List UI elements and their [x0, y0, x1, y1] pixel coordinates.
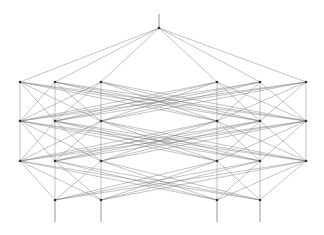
node-layer-3: [216, 160, 219, 163]
node-layer-1: [54, 81, 57, 84]
node-layer-1: [100, 81, 103, 84]
edge: [20, 28, 159, 82]
edge: [101, 28, 159, 82]
node-layer-1: [259, 81, 262, 84]
node-bottom: [259, 199, 262, 202]
node-top: [158, 27, 161, 30]
edge: [159, 28, 260, 82]
network-diagram: [0, 0, 324, 235]
edges: [20, 28, 306, 200]
edge: [20, 161, 101, 200]
node-layer-2: [305, 120, 308, 123]
node-layer-2: [216, 120, 219, 123]
edge: [159, 28, 217, 82]
node-bottom: [216, 199, 219, 202]
stems: [55, 14, 260, 222]
node-bottom: [54, 199, 57, 202]
node-layer-3: [19, 160, 22, 163]
node-layer-2: [19, 120, 22, 123]
node-layer-3: [305, 160, 308, 163]
node-layer-1: [305, 81, 308, 84]
node-layer-3: [54, 160, 57, 163]
node-layer-1: [19, 81, 22, 84]
node-layer-1: [216, 81, 219, 84]
edge: [101, 161, 306, 200]
node-bottom: [100, 199, 103, 202]
edge: [55, 28, 159, 82]
edge: [20, 161, 260, 200]
node-layer-2: [259, 120, 262, 123]
edge: [159, 28, 306, 82]
node-layer-2: [100, 120, 103, 123]
node-layer-3: [100, 160, 103, 163]
edge: [55, 161, 306, 200]
node-layer-3: [259, 160, 262, 163]
node-layer-2: [54, 120, 57, 123]
